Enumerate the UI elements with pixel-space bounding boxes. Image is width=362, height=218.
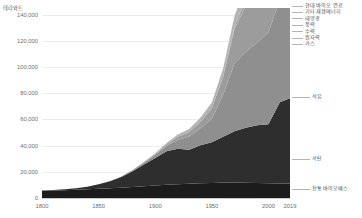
legend-item-label: 가스	[305, 41, 315, 46]
legend-leader-line	[292, 38, 303, 39]
inline-series-label: 석탄	[312, 156, 322, 161]
y-axis-tick-label: 80,000	[0, 90, 38, 96]
x-axis-tick-label: 1900	[149, 203, 162, 209]
axis-baseline	[42, 198, 290, 199]
inline-series-label: 석유	[312, 94, 322, 99]
x-axis-tick-label: 2019	[284, 203, 297, 209]
legend-leader-line	[292, 25, 303, 26]
y-axis-tick-label: 20,000	[0, 169, 38, 175]
x-axis-tick-label: 1950	[205, 203, 218, 209]
legend-item-label: 원자력	[305, 35, 320, 40]
y-axis-tick-label: 100,000	[0, 64, 38, 70]
legend-item-label: 수력	[305, 29, 315, 34]
stacked-area-paths	[42, 8, 290, 198]
x-axis-tick-label: 2000	[262, 203, 275, 209]
y-axis-tick-label: 60,000	[0, 116, 38, 122]
legend-leader-line	[292, 6, 303, 7]
legend-leader-line	[292, 18, 303, 19]
y-axis-unit-label: 테라와트	[3, 4, 23, 11]
legend-leader-line	[292, 31, 303, 32]
legend-item-label: 태양광	[305, 16, 320, 21]
legend-leader-line	[292, 44, 303, 45]
legend-item-label: 풍력	[305, 22, 315, 27]
inline-series-label: 전통 바이오매스	[312, 186, 348, 191]
y-axis-tick-label: 40,000	[0, 143, 38, 149]
inline-label-leader-line	[292, 159, 310, 160]
legend-leader-line	[292, 12, 303, 13]
x-axis-tick-label: 1800	[36, 203, 49, 209]
inline-label-leader-line	[292, 189, 310, 190]
legend-item-label: 기타 재생에너지	[305, 9, 341, 14]
y-axis-tick-label: 0	[0, 195, 38, 201]
plot-area	[42, 8, 290, 198]
legend-item-label: 현대 바이오 연료	[305, 3, 343, 8]
energy-consumption-area-chart: 테라와트 020,00040,00060,00080,000100,000120…	[0, 0, 362, 218]
inline-label-leader-line	[292, 97, 310, 98]
y-axis-tick-label: 120,000	[0, 38, 38, 44]
x-axis-tick-label: 1850	[92, 203, 105, 209]
y-axis-tick-label: 140,000	[0, 12, 38, 18]
